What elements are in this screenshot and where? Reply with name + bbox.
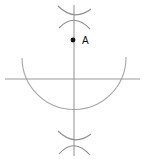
point-a-label: A (82, 35, 89, 46)
geometric-construction-figure: A (0, 0, 146, 159)
point-a-dot (71, 38, 76, 43)
construction-canvas: A (0, 0, 146, 159)
